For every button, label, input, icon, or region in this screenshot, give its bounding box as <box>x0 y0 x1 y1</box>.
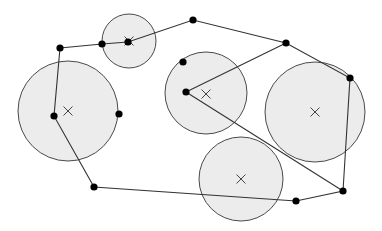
vertex-point <box>282 39 289 46</box>
circles-layer <box>18 14 365 221</box>
vertex-point <box>339 187 346 194</box>
geometry-diagram <box>0 0 382 231</box>
vertex-point <box>189 16 196 23</box>
vertex-point <box>56 44 63 51</box>
vertex-point <box>90 183 97 190</box>
vertex-point <box>182 88 189 95</box>
vertex-point <box>98 40 105 47</box>
vertex-point <box>179 58 186 65</box>
vertex-point <box>346 74 353 81</box>
vertex-point <box>115 110 122 117</box>
vertex-point <box>124 38 131 45</box>
vertex-point <box>50 112 57 119</box>
vertex-point <box>292 197 299 204</box>
circle-middle <box>165 52 247 134</box>
